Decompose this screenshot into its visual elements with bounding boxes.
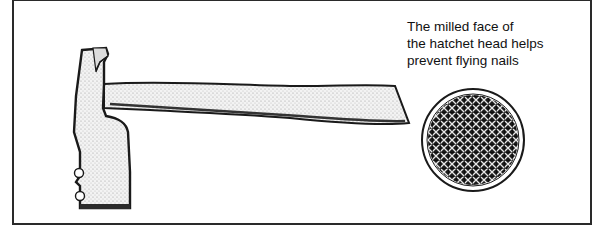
caption-line-1: The milled face of xyxy=(407,18,597,35)
caption-line-2: the hatchet head helps xyxy=(407,35,597,52)
figure-caption: The milled face of the hatchet head help… xyxy=(407,18,597,69)
nail-slot-lower xyxy=(76,192,85,201)
caption-line-3: prevent flying nails xyxy=(407,52,597,69)
hatchet-head xyxy=(74,48,130,209)
milled-face-detail xyxy=(422,89,524,191)
nail-slot-upper xyxy=(75,169,84,178)
handle xyxy=(104,83,409,124)
